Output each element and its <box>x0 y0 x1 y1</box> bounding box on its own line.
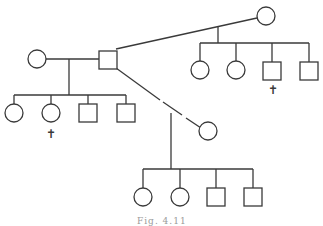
male-ii4 <box>117 104 135 122</box>
male-i2 <box>99 51 117 69</box>
female-ii1 <box>5 104 23 122</box>
deceased-cross-icon: ✝ <box>46 127 56 141</box>
female-ii6 <box>227 61 245 79</box>
figure-caption: Fig. 4.11 <box>137 216 187 226</box>
female-ii5 <box>191 61 209 79</box>
family-upper-right <box>116 18 309 62</box>
pedigree-diagram: ✝ ✝ <box>0 0 323 226</box>
male-ii12 <box>244 188 262 206</box>
female-ii9 <box>134 188 152 206</box>
male-ii8 <box>300 62 318 80</box>
female-i3 <box>257 7 275 25</box>
family-lower <box>116 68 253 188</box>
male-ii3 <box>79 104 97 122</box>
female-ii2 <box>42 104 60 122</box>
female-ii10 <box>171 188 189 206</box>
male-ii11 <box>207 188 225 206</box>
mating-line-lower-c <box>186 118 201 128</box>
female-i4 <box>199 122 217 140</box>
mating-line-lower-b <box>163 102 182 115</box>
male-ii7 <box>263 62 281 80</box>
deceased-cross-icon: ✝ <box>268 83 278 97</box>
female-i1 <box>28 50 46 68</box>
